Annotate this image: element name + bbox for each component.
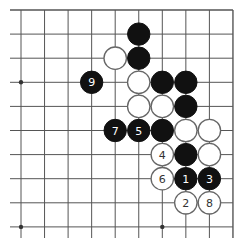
- move-number-label: 8: [206, 197, 213, 210]
- black-stone: [151, 119, 173, 141]
- white-stone-disc: [175, 119, 197, 141]
- white-stone-disc: [151, 95, 173, 117]
- black-stone: [128, 23, 150, 45]
- move-number-label: 1: [182, 173, 189, 186]
- white-stone-move-8: 8: [198, 192, 220, 214]
- move-number-label: 2: [182, 197, 189, 210]
- black-stone: [128, 47, 150, 69]
- white-stone: [198, 143, 220, 165]
- move-number-label: 7: [112, 125, 119, 138]
- white-stone: [151, 95, 173, 117]
- move-number-label: 4: [159, 149, 166, 162]
- black-stone-disc: [175, 95, 197, 117]
- stones-layer: 975461328: [80, 23, 220, 214]
- white-stone-disc: [128, 71, 150, 93]
- go-board: 975461328: [0, 0, 238, 246]
- black-stone-move-7: 7: [104, 119, 126, 141]
- black-stone-disc: [151, 119, 173, 141]
- black-stone-move-5: 5: [128, 119, 150, 141]
- star-point: [160, 225, 164, 229]
- white-stone: [128, 95, 150, 117]
- white-stone-disc: [198, 143, 220, 165]
- black-stone-move-1: 1: [175, 168, 197, 190]
- white-stone-move-6: 6: [151, 168, 173, 190]
- star-point: [19, 80, 23, 84]
- black-stone-move-3: 3: [198, 168, 220, 190]
- move-number-label: 9: [88, 76, 95, 89]
- black-stone-disc: [175, 143, 197, 165]
- black-stone: [175, 95, 197, 117]
- white-stone-move-4: 4: [151, 143, 173, 165]
- white-stone: [175, 119, 197, 141]
- white-stone-disc: [128, 95, 150, 117]
- white-stone-move-2: 2: [175, 192, 197, 214]
- black-stone-disc: [175, 71, 197, 93]
- black-stone: [175, 71, 197, 93]
- white-stone-disc: [104, 47, 126, 69]
- move-number-label: 6: [159, 173, 166, 186]
- black-stone: [175, 143, 197, 165]
- move-number-label: 3: [206, 173, 213, 186]
- black-stone-move-9: 9: [80, 71, 102, 93]
- black-stone-disc: [128, 23, 150, 45]
- black-stone: [151, 71, 173, 93]
- white-stone: [104, 47, 126, 69]
- white-stone: [198, 119, 220, 141]
- white-stone: [128, 71, 150, 93]
- star-point: [19, 225, 23, 229]
- black-stone-disc: [151, 71, 173, 93]
- move-number-label: 5: [135, 125, 142, 138]
- white-stone-disc: [198, 119, 220, 141]
- black-stone-disc: [128, 47, 150, 69]
